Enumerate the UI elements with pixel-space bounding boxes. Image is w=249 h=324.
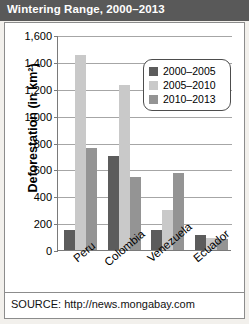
bar xyxy=(119,85,130,250)
legend-swatch-icon xyxy=(149,81,158,90)
y-tick-mark xyxy=(54,197,58,198)
legend-label: 2005–2010 xyxy=(163,79,216,91)
y-tick-label: 1,200 xyxy=(8,84,52,96)
y-tick-mark xyxy=(54,63,58,64)
y-tick-label: 200 xyxy=(8,218,52,230)
source-text: SOURCE: http://news.mongabay.com xyxy=(11,298,195,310)
chart-panel: Deforestation (in km²) 02004006008001,00… xyxy=(4,22,245,293)
chart-legend: 2000–20052005–20102010–2013 xyxy=(143,59,231,111)
y-tick-label: 1,400 xyxy=(8,57,52,69)
bar xyxy=(64,230,75,250)
y-tick-label: 800 xyxy=(8,138,52,150)
y-tick-mark xyxy=(54,90,58,91)
legend-label: 2000–2005 xyxy=(163,65,216,77)
y-tick-label: 1,600 xyxy=(8,30,52,42)
y-tick-mark xyxy=(54,251,58,252)
y-tick-label: 400 xyxy=(8,191,52,203)
legend-item: 2005–2010 xyxy=(149,78,225,92)
page-title: Wintering Range, 2000–2013 xyxy=(7,3,165,15)
source-panel: SOURCE: http://news.mongabay.com xyxy=(4,293,245,319)
chart-header-bar: Wintering Range, 2000–2013 xyxy=(0,0,249,21)
y-tick-mark xyxy=(54,117,58,118)
legend-swatch-icon xyxy=(149,67,158,76)
legend-swatch-icon xyxy=(149,95,158,104)
y-tick-mark xyxy=(54,144,58,145)
bar xyxy=(108,156,119,250)
y-tick-mark xyxy=(54,36,58,37)
y-tick-mark xyxy=(54,224,58,225)
bar-group xyxy=(108,35,141,250)
y-tick-label: 600 xyxy=(8,164,52,176)
legend-item: 2000–2005 xyxy=(149,64,225,78)
bar xyxy=(75,55,86,250)
y-axis-title: Deforestation (in km²) xyxy=(26,48,40,208)
y-tick-label: 1,000 xyxy=(8,111,52,123)
chart-figure: Wintering Range, 2000–2013 Deforestation… xyxy=(0,0,249,324)
y-tick-mark xyxy=(54,170,58,171)
legend-item: 2010–2013 xyxy=(149,92,225,106)
y-tick-label: 0 xyxy=(8,245,52,257)
legend-label: 2010–2013 xyxy=(163,93,216,105)
bar xyxy=(86,148,97,250)
bar-group xyxy=(64,35,97,250)
